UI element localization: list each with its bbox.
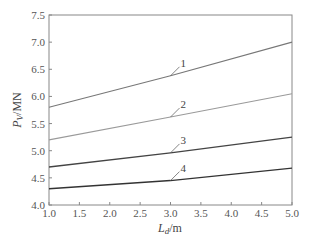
y-tick-label: 5.5 [31, 118, 45, 130]
x-tick-label: 3.0 [164, 207, 178, 219]
series-line-4 [49, 168, 292, 189]
y-tick-label: 7.5 [31, 9, 45, 21]
y-tick-label: 6.5 [31, 63, 45, 75]
plot-frame [49, 15, 292, 205]
y-tick-label: 4.5 [31, 172, 45, 184]
x-tick-label: 2.5 [133, 207, 147, 219]
x-tick-label: 3.5 [194, 207, 208, 219]
x-tick-label: 4.5 [255, 207, 269, 219]
y-tick-label: 5.0 [31, 145, 45, 157]
x-tick-label: 1.5 [73, 207, 87, 219]
series-label-1: 1 [181, 57, 187, 69]
x-tick-label: 1.0 [42, 207, 56, 219]
series-line-3 [49, 137, 292, 167]
data-series [49, 42, 292, 189]
x-tick-label: 5.0 [285, 207, 299, 219]
series-line-1 [49, 42, 292, 107]
series-label-3: 3 [181, 134, 187, 146]
series-label-4: 4 [181, 162, 187, 174]
x-tick-label: 2.0 [103, 207, 117, 219]
line-chart: 4.04.55.05.56.06.57.07.5 1.01.52.02.53.0… [0, 0, 316, 239]
y-axis-label: PV/MN [10, 92, 25, 129]
y-tick-label: 6.0 [31, 90, 45, 102]
x-axis-label: Ld/m [157, 221, 183, 236]
x-tick-label: 4.0 [224, 207, 238, 219]
series-label-2: 2 [181, 98, 187, 110]
y-tick-label: 7.0 [31, 36, 45, 48]
